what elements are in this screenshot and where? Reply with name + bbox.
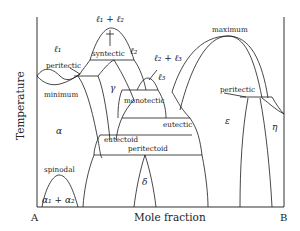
label-spinodal: spinodal [44,165,75,174]
liquidus-l2-right [134,60,146,90]
label-eutectoid: eutectoid [104,135,139,144]
label-l2-l3: ℓ₂ + ℓ₃ [154,53,182,63]
label-minimum: minimum [44,90,78,99]
x-axis-right-end: B [280,212,287,223]
label-l3: ℓ₃ [158,72,166,82]
x-axis-label: Mole fraction [134,211,206,223]
label-peritectic-right: peritectic [220,85,255,94]
x-axis-left-end: A [30,212,39,223]
minimum-lens-lower [37,74,80,85]
y-axis-label: Temperature [14,71,26,140]
gamma-inner-left [98,76,110,140]
label-alpha: α [56,126,62,136]
label-syntectic: syntectic [92,49,125,58]
eta-left-solvus [260,98,272,207]
label-epsilon: ε [225,116,230,126]
gamma-left-boundary [98,60,114,76]
alpha-solvus [78,76,102,158]
label-l2: ℓ₂ [130,46,138,56]
l3-pointer [149,70,157,80]
label-peritectoid: peritectoid [128,144,168,153]
monotectic-dome [137,78,158,90]
label-delta: δ [142,177,147,187]
eta-liquidus [262,98,284,114]
label-monotectic: monotectic [124,96,164,105]
epsilon-right-solvus [240,98,248,207]
eta-solidus [272,97,284,114]
liquidus-l1-left [80,60,90,74]
alpha-right-boundary [83,155,94,207]
epsilon-left-solvus [190,118,208,207]
label-eta: η [272,122,278,132]
phase-diagram: ℓ₁ + ℓ₂ ℓ₁ peritectic syntectic ℓ₂ minim… [0,0,300,231]
label-alpha1-alpha2: α₁ + α₂ [42,195,75,205]
label-eutectic: eutectic [163,120,192,129]
label-l1-l2: ℓ₁ + ℓ₂ [96,14,124,24]
label-peritectic-left: peritectic [46,61,81,70]
label-gamma: γ [110,83,116,93]
label-l1: ℓ₁ [54,44,61,54]
monotectic-left [118,90,122,118]
label-maximum: maximum [212,25,248,34]
gamma-upper-right [114,60,134,100]
